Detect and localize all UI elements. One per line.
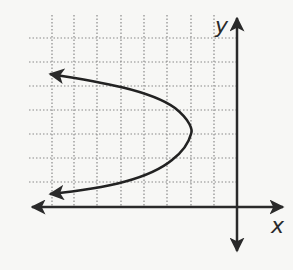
x-axis-label: x	[270, 213, 285, 238]
coordinate-graph: y x	[0, 0, 293, 270]
y-axis-label: y	[214, 13, 229, 38]
